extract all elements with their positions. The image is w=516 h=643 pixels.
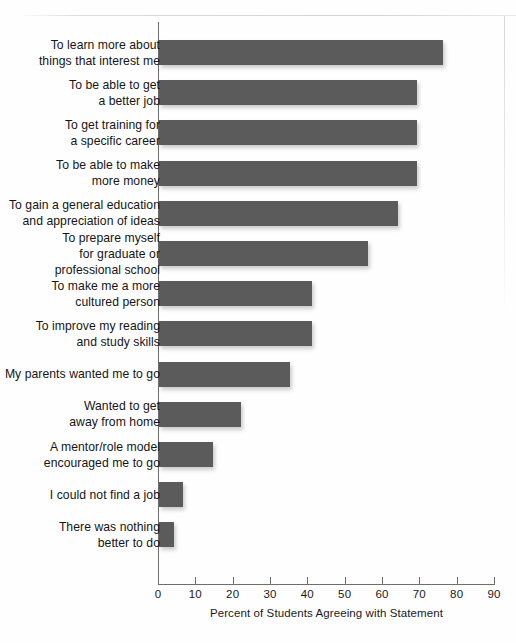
x-tick-label: 90	[487, 588, 500, 600]
x-tick-mark	[345, 577, 346, 585]
bar	[159, 281, 312, 306]
x-tick-label: 20	[226, 588, 239, 600]
category-label: My parents wanted me to go	[5, 366, 160, 382]
bar	[159, 161, 417, 186]
category-label: To gain a general education and apprecia…	[9, 197, 160, 229]
x-tick-mark	[307, 577, 308, 585]
bar	[159, 442, 213, 467]
x-tick-label: 60	[375, 588, 388, 600]
bar-chart-plot-area: To learn more about things that interest…	[0, 0, 516, 643]
category-label: To be able to make more money	[56, 157, 160, 189]
bar	[159, 402, 241, 427]
x-tick-mark	[494, 577, 495, 585]
x-tick-mark	[457, 577, 458, 585]
category-label: Wanted to get away from home	[69, 398, 160, 430]
category-label: To get training for a specific career	[65, 117, 160, 149]
category-label: To learn more about things that interest…	[39, 37, 160, 69]
category-label: To make me a more cultured person	[51, 278, 160, 310]
x-tick-mark	[195, 577, 196, 585]
x-tick-label: 50	[338, 588, 351, 600]
x-tick-mark	[419, 577, 420, 585]
bar	[159, 120, 417, 145]
bar	[159, 522, 174, 547]
chart-figure: To learn more about things that interest…	[0, 0, 516, 643]
x-tick-label: 30	[263, 588, 276, 600]
x-tick-mark	[233, 577, 234, 585]
x-axis-title: Percent of Students Agreeing with Statem…	[158, 607, 495, 619]
x-tick-mark	[270, 577, 271, 585]
x-tick-mark	[158, 577, 159, 585]
x-tick-label: 40	[301, 588, 314, 600]
x-tick-label: 70	[413, 588, 426, 600]
x-tick-label: 10	[189, 588, 202, 600]
x-tick-mark	[382, 577, 383, 585]
category-label: I could not find a job	[50, 487, 160, 503]
category-label: There was nothing better to do	[59, 519, 160, 551]
category-label: To prepare myself for graduate or profes…	[55, 230, 160, 278]
bar	[159, 482, 183, 507]
bar	[159, 80, 417, 105]
x-axis-line	[158, 584, 495, 585]
bar	[159, 40, 443, 65]
x-tick-label: 0	[155, 588, 162, 600]
bar	[159, 201, 398, 226]
bar	[159, 241, 368, 266]
category-label: To improve my reading and study skills	[36, 318, 160, 350]
category-label: To be able to get a better job	[69, 77, 160, 109]
bar	[159, 321, 312, 346]
x-tick-label: 80	[450, 588, 463, 600]
category-label: A mentor/role model encouraged me to go	[44, 439, 160, 471]
bar	[159, 362, 290, 387]
